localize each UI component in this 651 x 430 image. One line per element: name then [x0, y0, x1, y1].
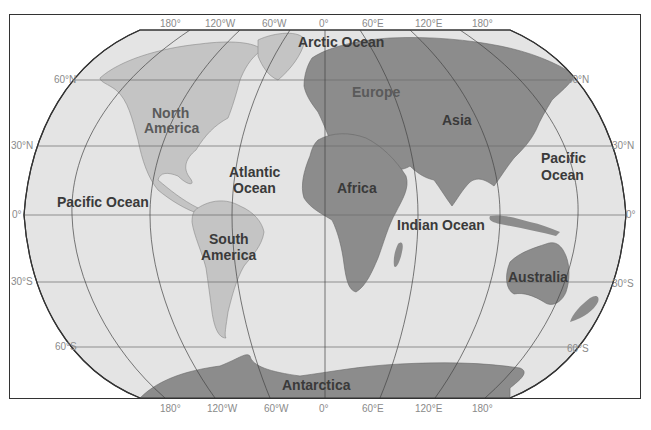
svg-text:180°: 180°	[472, 18, 493, 29]
label-australia: Australia	[508, 269, 568, 285]
label-pacific-ocean-west: Pacific Ocean	[57, 194, 149, 210]
label-pacific-ocean-east-line2: Ocean	[541, 167, 584, 183]
longitude-labels-bottom: 180° 120°W 60°W 0° 60°E 120°E 180°	[160, 403, 493, 414]
label-south-america-line2: America	[201, 247, 256, 263]
label-north-america-line1: North	[152, 105, 189, 121]
svg-text:60°W: 60°W	[264, 403, 289, 414]
svg-text:60°N: 60°N	[54, 74, 76, 85]
svg-text:120°E: 120°E	[415, 403, 443, 414]
svg-text:120°E: 120°E	[415, 18, 443, 29]
label-atlantic-ocean-line2: Ocean	[233, 180, 276, 196]
world-map: 180° 120°W 60°W 0° 60°E 120°E 180° 180° …	[0, 0, 651, 430]
svg-text:0°: 0°	[626, 209, 636, 220]
label-south-america-line1: South	[209, 231, 249, 247]
label-africa: Africa	[337, 180, 377, 196]
svg-text:180°: 180°	[160, 403, 181, 414]
label-arctic-ocean: Arctic Ocean	[298, 34, 384, 50]
svg-text:120°W: 120°W	[207, 403, 238, 414]
svg-text:0°: 0°	[319, 403, 329, 414]
svg-text:120°W: 120°W	[205, 18, 236, 29]
label-asia: Asia	[442, 112, 472, 128]
label-pacific-ocean-east-line1: Pacific	[541, 150, 586, 166]
label-north-america-line2: America	[144, 120, 199, 136]
svg-text:30°S: 30°S	[612, 278, 634, 289]
svg-text:30°S: 30°S	[11, 276, 33, 287]
svg-text:180°: 180°	[472, 403, 493, 414]
svg-text:60°N: 60°N	[567, 74, 589, 85]
label-atlantic-ocean-line1: Atlantic	[229, 164, 281, 180]
svg-text:0°: 0°	[319, 18, 329, 29]
svg-text:60°S: 60°S	[567, 343, 589, 354]
label-indian-ocean: Indian Ocean	[397, 217, 485, 233]
svg-text:60°E: 60°E	[362, 18, 384, 29]
svg-text:30°N: 30°N	[11, 140, 33, 151]
svg-text:0°: 0°	[12, 209, 22, 220]
label-europe: Europe	[352, 84, 400, 100]
longitude-labels-top: 180° 120°W 60°W 0° 60°E 120°E 180°	[160, 18, 493, 29]
label-antarctica: Antarctica	[282, 377, 351, 393]
svg-text:60°W: 60°W	[262, 18, 287, 29]
svg-text:30°N: 30°N	[612, 140, 634, 151]
svg-text:60°S: 60°S	[55, 341, 77, 352]
svg-text:60°E: 60°E	[362, 403, 384, 414]
svg-text:180°: 180°	[160, 18, 181, 29]
